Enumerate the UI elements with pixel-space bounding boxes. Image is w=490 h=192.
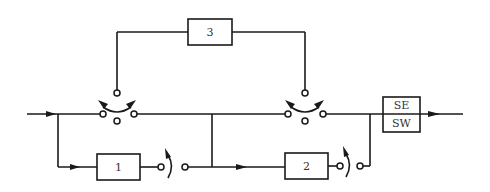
block-1-label: 1 <box>115 161 122 174</box>
block-se-sw: SE SW <box>383 97 420 132</box>
output-arrow-icon <box>428 111 440 117</box>
block-2: 2 <box>285 153 328 179</box>
changeover-switch-right <box>285 90 383 124</box>
bypass-path-top: 3 <box>117 19 305 90</box>
se-label: SE <box>394 99 410 112</box>
block-2-label: 2 <box>303 160 310 173</box>
branch-to-block-1 <box>58 114 97 170</box>
switch-arrow-icon <box>165 148 171 159</box>
output-line <box>420 111 463 117</box>
sw-label: SW <box>392 117 412 130</box>
arrow-icon <box>70 164 80 170</box>
block-1: 1 <box>97 154 140 180</box>
arrow-icon <box>236 164 247 170</box>
switch-arrow-icon <box>343 146 349 157</box>
switch-after-block-2 <box>328 114 370 177</box>
switch-arrow-icon <box>285 100 295 109</box>
input-arrow-icon <box>46 111 56 117</box>
input-line <box>27 111 103 117</box>
block-3-label: 3 <box>207 26 214 39</box>
block-diagram: 1 3 <box>0 0 490 192</box>
